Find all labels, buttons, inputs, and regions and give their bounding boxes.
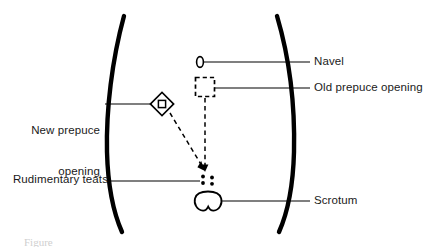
new-prepuce-opening-marker	[150, 92, 173, 115]
label-rudimentary-teats: Rudimentary teats	[0, 173, 108, 187]
scrotum-marker	[195, 192, 222, 211]
anatomy-figure: New prepuce opening Rudimentary teats Na…	[0, 0, 441, 248]
label-new-prepuce-opening: New prepuce opening	[0, 97, 100, 205]
teat-dot	[210, 176, 214, 180]
label-old-prepuce-opening: Old prepuce opening	[314, 81, 423, 95]
rudimentary-teats-marker	[201, 175, 214, 186]
body-outline-right-flank	[277, 16, 294, 232]
figure-caption: Figure	[24, 236, 324, 247]
label-new-prepuce-opening-line1: New prepuce	[0, 124, 100, 138]
new-opening-relocation-dashed-line	[170, 113, 202, 166]
label-navel: Navel	[314, 55, 344, 69]
label-scrotum: Scrotum	[314, 194, 358, 208]
navel-marker	[197, 57, 204, 68]
body-outline-left-flank	[107, 16, 124, 232]
teat-dot	[201, 181, 205, 185]
teat-dot	[201, 175, 205, 179]
teat-dot	[210, 182, 214, 186]
old-prepuce-opening-marker	[196, 78, 215, 97]
